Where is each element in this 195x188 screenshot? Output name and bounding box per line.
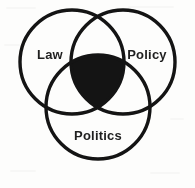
venn-diagram-container: Law Policy Politics [0,0,195,188]
label-law: Law [37,47,64,62]
label-policy: Policy [127,47,167,62]
label-politics: Politics [74,128,122,143]
venn-diagram-figure: Law Policy Politics [0,0,195,188]
